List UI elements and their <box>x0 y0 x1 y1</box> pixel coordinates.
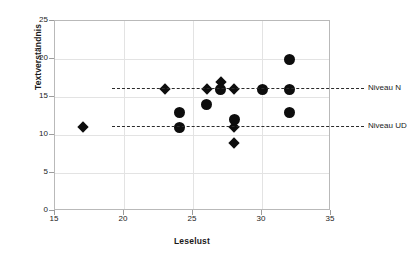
reference-line-label: Niveau N <box>368 83 401 92</box>
data-point-diamond <box>160 84 171 95</box>
y-tick-label: 25 <box>4 15 48 24</box>
data-point-circle <box>284 107 295 118</box>
x-axis-title: Leselust <box>54 236 330 246</box>
y-tick-mark <box>49 172 54 173</box>
data-point-circle <box>174 107 185 118</box>
data-point-diamond <box>229 137 240 148</box>
x-tick-label: 25 <box>172 214 212 223</box>
x-tick-mark <box>192 210 193 215</box>
x-tick-mark <box>123 210 124 215</box>
y-tick-label: 0 <box>4 205 48 214</box>
data-point-diamond <box>229 84 240 95</box>
data-point-circle <box>174 122 185 133</box>
x-tick-label: 20 <box>103 214 143 223</box>
y-tick-label: 20 <box>4 53 48 62</box>
reference-line-2 <box>112 126 364 127</box>
gridline-horizontal <box>55 97 329 98</box>
gridline-vertical <box>262 21 263 209</box>
plot-area <box>54 20 330 210</box>
x-tick-mark <box>330 210 331 215</box>
gridline-vertical <box>124 21 125 209</box>
data-point-diamond <box>201 84 212 95</box>
data-point-circle <box>215 84 226 95</box>
y-tick-mark <box>49 20 54 21</box>
y-tick-mark <box>49 134 54 135</box>
data-point-circle <box>257 84 268 95</box>
data-point-diamond <box>77 122 88 133</box>
x-tick-label: 30 <box>241 214 281 223</box>
y-tick-label: 10 <box>4 129 48 138</box>
reference-line-label: Niveau UD <box>368 121 407 130</box>
x-tick-mark <box>261 210 262 215</box>
gridline-horizontal <box>55 173 329 174</box>
data-point-circle <box>229 114 240 125</box>
gridline-horizontal <box>55 135 329 136</box>
y-tick-label: 15 <box>4 91 48 100</box>
y-tick-mark <box>49 58 54 59</box>
data-point-circle <box>284 54 295 65</box>
data-point-circle <box>201 99 212 110</box>
y-tick-mark <box>49 96 54 97</box>
x-tick-mark <box>54 210 55 215</box>
y-tick-label: 5 <box>4 167 48 176</box>
data-point-circle <box>284 84 295 95</box>
x-tick-label: 35 <box>310 214 350 223</box>
x-tick-label: 15 <box>34 214 74 223</box>
chart-container: Textverständnis 0510152025 1520253035 Ni… <box>0 0 415 257</box>
reference-line-1 <box>112 88 364 89</box>
gridline-vertical <box>193 21 194 209</box>
